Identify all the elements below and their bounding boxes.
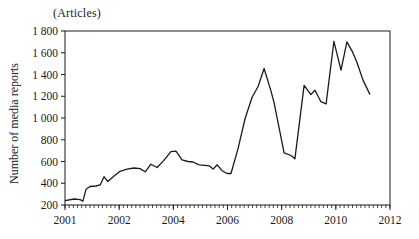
x-tick-label: 2004 bbox=[153, 214, 193, 226]
y-tick-label: 1 200 bbox=[14, 90, 58, 102]
y-tick-label: 600 bbox=[14, 156, 58, 168]
plot-canvas bbox=[0, 0, 419, 239]
x-tick-label: 2001 bbox=[45, 214, 85, 226]
x-tick-label: 2002 bbox=[99, 214, 139, 226]
x-tick-label: 2006 bbox=[208, 214, 248, 226]
y-tick-label: 800 bbox=[14, 134, 58, 146]
x-tick-label: 2012 bbox=[370, 214, 410, 226]
y-tick-label: 1 400 bbox=[14, 69, 58, 81]
y-tick-label: 400 bbox=[14, 177, 58, 189]
series-line-media-reports bbox=[65, 41, 370, 201]
y-tick-label: 200 bbox=[14, 199, 58, 211]
y-tick-label: 1 800 bbox=[14, 25, 58, 37]
y-tick-label: 1 600 bbox=[14, 47, 58, 59]
x-tick-label: 2008 bbox=[262, 214, 302, 226]
media-reports-chart: (Articles) Number of media reports 20040… bbox=[0, 0, 419, 239]
y-tick-label: 1 000 bbox=[14, 112, 58, 124]
plot-frame bbox=[65, 31, 390, 205]
x-tick-label: 2010 bbox=[316, 214, 356, 226]
